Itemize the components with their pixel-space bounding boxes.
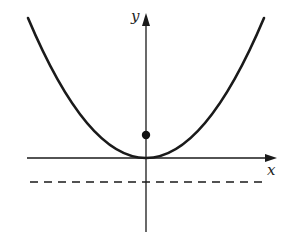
y-axis-label: y [130, 7, 140, 25]
y-axis-arrow-icon [142, 13, 150, 26]
parabola-diagram: y x [0, 0, 290, 232]
x-axis-label: x [267, 161, 276, 179]
focus-point [142, 131, 150, 139]
y-axis [142, 13, 150, 232]
